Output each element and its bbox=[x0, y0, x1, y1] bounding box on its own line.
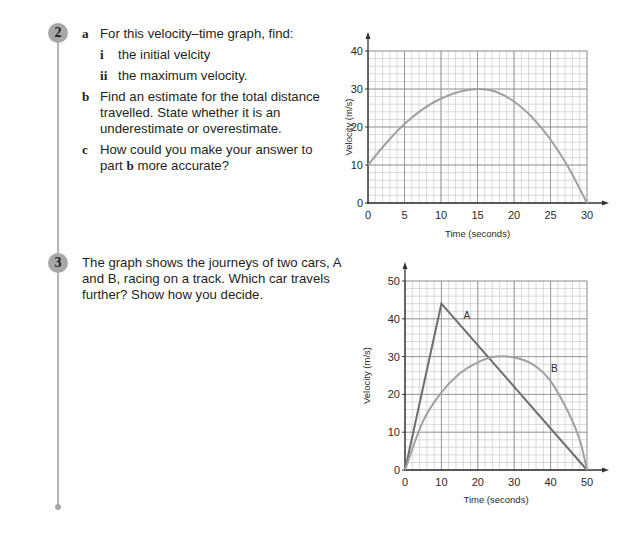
y-tick-label: 40 bbox=[351, 45, 363, 57]
series-label: A bbox=[464, 310, 471, 321]
series-b bbox=[405, 356, 587, 470]
y-axis-arrow-icon bbox=[366, 32, 371, 39]
x-tick-label: 10 bbox=[435, 209, 447, 221]
series-label: B bbox=[551, 363, 558, 374]
y-axis-label: Velocity (m/s) bbox=[361, 347, 372, 404]
velocity-time-graphs: 051015202530010203040Time (seconds)Veloc… bbox=[0, 0, 638, 539]
y-tick-label: 40 bbox=[388, 313, 400, 325]
x-axis-arrow-icon bbox=[602, 468, 609, 473]
x-tick-label: 10 bbox=[435, 476, 447, 488]
x-tick-label: 40 bbox=[544, 476, 556, 488]
y-axis-arrow-icon bbox=[403, 262, 408, 269]
x-axis-arrow-icon bbox=[602, 201, 609, 206]
x-tick-label: 20 bbox=[508, 209, 520, 221]
y-tick-label: 30 bbox=[351, 83, 363, 95]
x-axis-label: Time (seconds) bbox=[463, 494, 528, 505]
x-tick-label: 20 bbox=[472, 476, 484, 488]
x-tick-label: 50 bbox=[581, 476, 593, 488]
y-axis-label: Velocity (m/s) bbox=[343, 98, 354, 155]
x-tick-label: 15 bbox=[471, 209, 483, 221]
y-tick-label: 20 bbox=[388, 388, 400, 400]
y-tick-label: 30 bbox=[388, 351, 400, 363]
x-tick-label: 25 bbox=[544, 209, 556, 221]
x-axis-label: Time (seconds) bbox=[445, 228, 510, 239]
y-tick-label: 0 bbox=[394, 464, 400, 476]
y-tick-label: 50 bbox=[388, 275, 400, 287]
y-tick-label: 10 bbox=[351, 159, 363, 171]
x-tick-label: 30 bbox=[581, 209, 593, 221]
y-tick-label: 10 bbox=[388, 426, 400, 438]
x-tick-label: 0 bbox=[365, 209, 371, 221]
chart-1: 051015202530010203040Time (seconds)Veloc… bbox=[343, 32, 609, 239]
chart-2: 0102030405001020304050Time (seconds)Velo… bbox=[361, 262, 609, 505]
x-tick-label: 5 bbox=[401, 209, 407, 221]
y-tick-label: 0 bbox=[357, 197, 363, 209]
x-tick-label: 0 bbox=[402, 476, 408, 488]
x-tick-label: 30 bbox=[508, 476, 520, 488]
